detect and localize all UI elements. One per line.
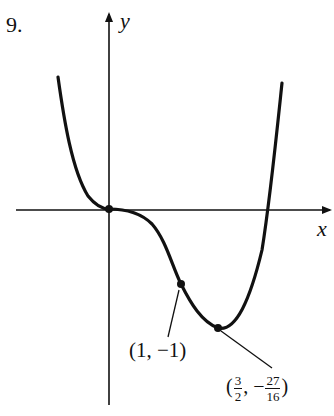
function-curve [58, 77, 282, 328]
x-fraction: 32 [234, 374, 243, 403]
minimum-leader-line [221, 331, 272, 368]
minimum-point [214, 324, 222, 332]
paren-close: ) [281, 375, 288, 397]
inflection-leader-line [168, 290, 179, 337]
inflection-point-label: (1, −1) [129, 340, 186, 361]
minimum-point-label: (32, −2716) [226, 374, 288, 403]
separator: , − [243, 375, 264, 397]
paren-open: ( [226, 375, 233, 397]
x-axis-label: x [317, 218, 327, 240]
inflection-point [177, 280, 185, 288]
origin-point [105, 205, 113, 213]
problem-number: 9. [6, 14, 23, 36]
y-fraction: 2716 [265, 374, 280, 403]
y-axis-label: y [120, 10, 130, 32]
